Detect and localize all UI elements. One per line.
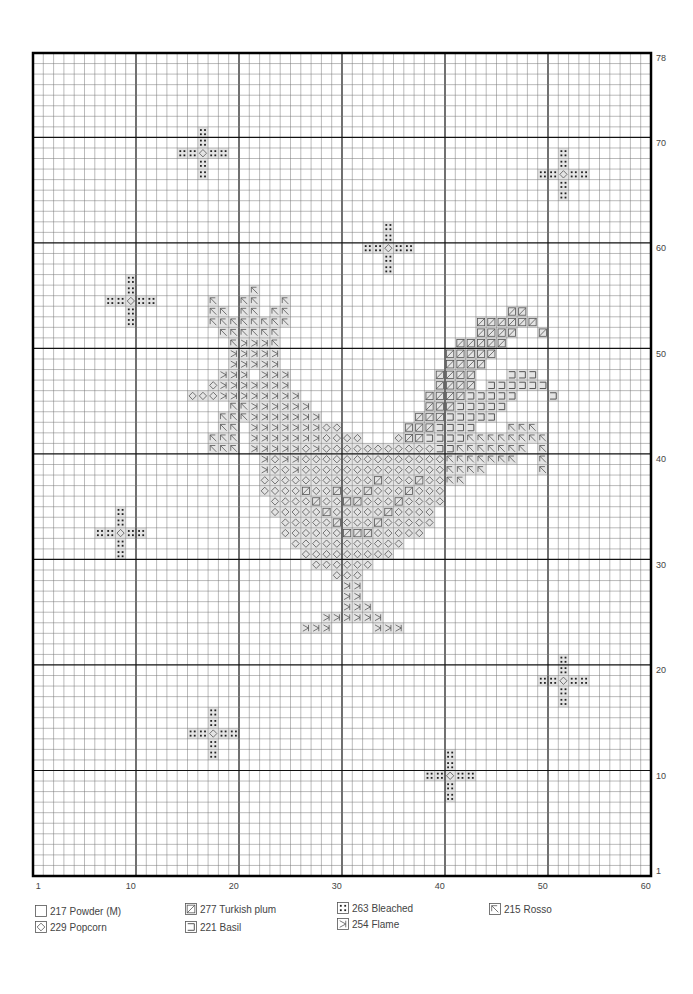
- arrow-up-left-icon: [489, 903, 501, 915]
- legend-item-popcorn: 229 Popcorn: [35, 921, 107, 933]
- legend-item-flame: 254 Flame: [337, 918, 399, 930]
- four-dots-icon: [337, 902, 349, 914]
- legend-item-powder: 217 Powder (M): [35, 905, 121, 917]
- legend-item-turkish-plum: 277 Turkish plum: [185, 903, 276, 915]
- legend-label: 221 Basil: [200, 922, 241, 933]
- y-axis-label: 40: [656, 454, 666, 464]
- legend-item-basil: 221 Basil: [185, 921, 241, 933]
- y-axis-label: 10: [656, 771, 666, 781]
- x-axis-label: 60: [641, 881, 651, 891]
- legend-item-bleached: 263 Bleached: [337, 902, 413, 914]
- legend-label: 217 Powder (M): [50, 906, 121, 917]
- x-axis-label: 10: [126, 881, 136, 891]
- diamond-icon: [35, 921, 47, 933]
- legend-label: 215 Rosso: [504, 904, 552, 915]
- x-axis-label: 1: [36, 881, 41, 891]
- legend-label: 263 Bleached: [352, 903, 413, 914]
- bracket-icon: [185, 921, 197, 933]
- y-axis-label: 50: [656, 349, 666, 359]
- x-axis-label: 20: [229, 881, 239, 891]
- cross-stitch-chart: 110203040506078706050403020101: [0, 0, 693, 900]
- legend-label: 254 Flame: [352, 919, 399, 930]
- x-axis-label: 40: [435, 881, 445, 891]
- legend-label: 229 Popcorn: [50, 922, 107, 933]
- y-axis-label: 30: [656, 560, 666, 570]
- y-axis-label: 70: [656, 138, 666, 148]
- x-axis-label: 30: [332, 881, 342, 891]
- arrow-right-icon: [337, 918, 349, 930]
- y-axis-label: 60: [656, 243, 666, 253]
- y-axis-label: 20: [656, 665, 666, 675]
- grid: [33, 53, 651, 876]
- legend: 217 Powder (M) 229 Popcorn 277 Turkish p…: [0, 900, 693, 940]
- y-axis-label: 78: [656, 53, 666, 63]
- legend-label: 277 Turkish plum: [200, 904, 276, 915]
- blank-square-icon: [35, 905, 47, 917]
- corner-triangle-icon: [185, 903, 197, 915]
- y-axis-label: 1: [656, 866, 661, 876]
- legend-item-rosso: 215 Rosso: [489, 903, 552, 915]
- x-axis-label: 50: [538, 881, 548, 891]
